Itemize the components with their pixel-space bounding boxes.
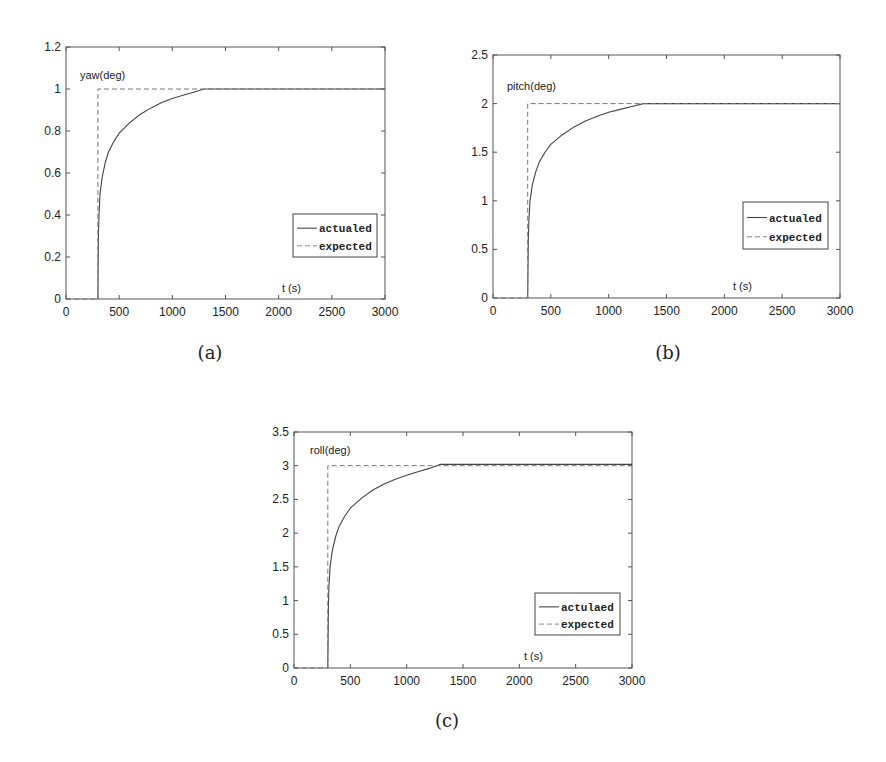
x-tick-label: 1000 bbox=[393, 674, 420, 688]
y-axis-annotation: roll(deg) bbox=[310, 444, 350, 456]
series-expected-line bbox=[66, 89, 385, 299]
legend-label-expected: expected bbox=[769, 232, 822, 244]
y-axis-annotation: pitch(deg) bbox=[507, 80, 556, 92]
caption-a: (a) bbox=[198, 342, 223, 363]
y-tick-label: 1.2 bbox=[44, 40, 61, 54]
y-tick-label: 0.5 bbox=[471, 242, 488, 256]
series-actual-line bbox=[98, 89, 385, 299]
y-tick-label: 2.5 bbox=[471, 48, 488, 62]
y-tick-label: 0.2 bbox=[44, 250, 61, 264]
y-tick-label: 0 bbox=[282, 661, 289, 675]
plot-frame bbox=[66, 47, 385, 299]
x-tick-label: 2500 bbox=[769, 304, 796, 318]
y-tick-label: 1 bbox=[54, 82, 61, 96]
x-tick-label: 2000 bbox=[506, 674, 533, 688]
chart-panel-2: 05001000150020002500300000.511.522.5pitc… bbox=[471, 48, 853, 318]
x-tick-label: 3000 bbox=[827, 304, 854, 318]
legend-label-expected: expected bbox=[561, 619, 614, 631]
x-tick-label: 500 bbox=[340, 674, 360, 688]
y-tick-label: 0.5 bbox=[272, 627, 289, 641]
legend-label-actual: actulaed bbox=[561, 602, 614, 614]
series-expected-line bbox=[493, 104, 840, 298]
x-axis-annotation: t (s) bbox=[282, 282, 301, 294]
x-tick-label: 3000 bbox=[372, 305, 399, 319]
caption-c: (c) bbox=[435, 710, 459, 731]
y-tick-label: 0 bbox=[54, 292, 61, 306]
y-tick-label: 0.4 bbox=[44, 208, 61, 222]
x-tick-label: 1000 bbox=[595, 304, 622, 318]
y-tick-label: 0.8 bbox=[44, 124, 61, 138]
chart-panel-3: 05001000150020002500300000.511.522.533.5… bbox=[272, 425, 645, 688]
x-tick-label: 1000 bbox=[159, 305, 186, 319]
y-tick-label: 2 bbox=[282, 526, 289, 540]
x-tick-label: 500 bbox=[109, 305, 129, 319]
caption-b: (b) bbox=[655, 342, 681, 363]
legend-label-actual: actualed bbox=[769, 213, 822, 225]
x-tick-label: 1500 bbox=[450, 674, 477, 688]
chart-canvas: 05001000150020002500300000.20.40.60.811.… bbox=[0, 0, 886, 762]
y-axis-annotation: yaw(deg) bbox=[80, 69, 125, 81]
series-expected-line bbox=[294, 466, 632, 668]
x-tick-label: 2000 bbox=[265, 305, 292, 319]
legend-label-expected: expected bbox=[319, 241, 372, 253]
y-tick-label: 1 bbox=[282, 594, 289, 608]
x-tick-label: 2500 bbox=[318, 305, 345, 319]
chart-panel-1: 05001000150020002500300000.20.40.60.811.… bbox=[44, 40, 398, 319]
x-tick-label: 0 bbox=[291, 674, 298, 688]
x-tick-label: 500 bbox=[541, 304, 561, 318]
y-tick-label: 2 bbox=[481, 97, 488, 111]
y-tick-label: 3.5 bbox=[272, 425, 289, 439]
y-tick-label: 2.5 bbox=[272, 492, 289, 506]
x-tick-label: 2500 bbox=[562, 674, 589, 688]
y-tick-label: 0 bbox=[481, 291, 488, 305]
y-tick-label: 3 bbox=[282, 459, 289, 473]
x-axis-annotation: t (s) bbox=[733, 280, 752, 292]
series-actual-line bbox=[328, 464, 632, 668]
x-axis-annotation: t (s) bbox=[524, 650, 543, 662]
y-tick-label: 1.5 bbox=[471, 145, 488, 159]
y-tick-label: 1 bbox=[481, 194, 488, 208]
series-actual-line bbox=[528, 104, 840, 298]
x-tick-label: 0 bbox=[63, 305, 70, 319]
x-tick-label: 3000 bbox=[619, 674, 646, 688]
x-tick-label: 1500 bbox=[653, 304, 680, 318]
legend-label-actual: actualed bbox=[319, 223, 372, 235]
x-tick-label: 1500 bbox=[212, 305, 239, 319]
y-tick-label: 0.6 bbox=[44, 166, 61, 180]
x-tick-label: 2000 bbox=[711, 304, 738, 318]
y-tick-label: 1.5 bbox=[272, 560, 289, 574]
x-tick-label: 0 bbox=[490, 304, 497, 318]
